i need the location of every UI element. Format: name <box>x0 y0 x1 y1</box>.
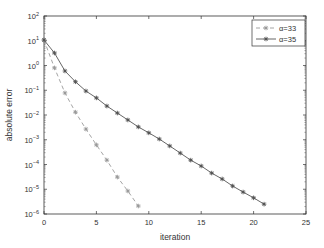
x-axis-label: iteration <box>160 232 191 242</box>
series-alpha-33 <box>42 38 141 209</box>
legend-marker <box>265 27 267 29</box>
legend-label: α=33 <box>279 24 296 33</box>
data-point-marker <box>137 205 139 207</box>
data-point-marker <box>53 52 55 54</box>
y-tick-label: 100 <box>28 60 39 71</box>
x-tick-label: 20 <box>249 218 257 227</box>
data-point-marker <box>179 152 181 154</box>
x-tick-label: 0 <box>42 218 46 227</box>
x-tick-label: 10 <box>145 218 153 227</box>
x-tick-label: 5 <box>94 218 98 227</box>
data-point-marker <box>74 111 76 113</box>
legend-label: α=35 <box>279 35 296 44</box>
data-point-marker <box>253 197 255 199</box>
data-point-marker <box>64 70 66 72</box>
y-tick-label: 10−3 <box>24 134 39 145</box>
y-tick-label: 101 <box>28 35 39 46</box>
data-point-marker <box>106 159 108 161</box>
series-line <box>44 40 138 206</box>
y-tick-label: 10−2 <box>24 110 39 121</box>
data-point-marker <box>85 128 87 130</box>
y-tick-label: 102 <box>28 11 39 22</box>
y-axis-label: absolute error <box>4 89 14 142</box>
data-point-marker <box>106 105 108 107</box>
convergence-plot: 051015202510210110010−110−210−310−410−51… <box>0 0 324 248</box>
data-point-marker <box>211 172 213 174</box>
data-point-marker <box>148 132 150 134</box>
data-point-marker <box>95 144 97 146</box>
data-point-marker <box>127 119 129 121</box>
data-point-marker <box>95 97 97 99</box>
legend-marker <box>265 38 267 40</box>
chart-container: 051015202510210110010−110−210−310−410−51… <box>0 0 324 248</box>
data-point-marker <box>169 145 171 147</box>
legend: α=33α=35 <box>252 20 305 46</box>
data-point-marker <box>137 126 139 128</box>
data-point-marker <box>200 165 202 167</box>
y-tick-label: 10−1 <box>24 85 39 96</box>
data-point-marker <box>232 185 234 187</box>
data-point-marker <box>53 67 55 69</box>
data-point-marker <box>242 191 244 193</box>
y-tick-label: 10−4 <box>24 159 39 170</box>
data-point-marker <box>263 203 265 205</box>
data-point-marker <box>64 92 66 94</box>
x-tick-label: 15 <box>197 218 205 227</box>
data-point-marker <box>190 159 192 161</box>
series-line <box>44 40 264 204</box>
data-point-marker <box>221 178 223 180</box>
x-tick-label: 25 <box>302 218 310 227</box>
data-series <box>42 38 267 209</box>
data-point-marker <box>74 81 76 83</box>
data-point-marker <box>116 176 118 178</box>
data-point-marker <box>85 90 87 92</box>
data-point-marker <box>127 190 129 192</box>
data-point-marker <box>43 39 45 41</box>
data-point-marker <box>158 138 160 140</box>
y-tick-label: 10−6 <box>24 209 39 220</box>
series-alpha-35 <box>42 38 267 207</box>
y-tick-label: 10−5 <box>24 184 39 195</box>
data-point-marker <box>116 112 118 114</box>
